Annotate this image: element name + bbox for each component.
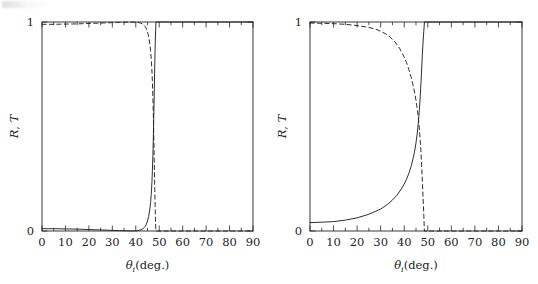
x-tick-label: 30: [373, 235, 388, 249]
x-tick-label: 70: [199, 235, 214, 249]
x-tick-label: 50: [152, 235, 167, 249]
y-axis-title-comma: ,: [275, 122, 289, 129]
axis-ticks-right: [310, 22, 522, 231]
y-tick-label: 0: [295, 224, 302, 238]
x-axis-title-unit: (deg.): [135, 258, 169, 272]
plot-left: 010102030405060708090R, Tθi(deg.): [0, 0, 269, 284]
x-tick-label: 50: [420, 235, 435, 249]
y-axis-title-comma: ,: [7, 122, 21, 129]
y-axis-title-r: R: [7, 129, 21, 139]
curve-t-dashed: [310, 23, 522, 231]
axis-labels-left: 010102030405060708090R, Tθi(deg.): [7, 15, 260, 274]
x-tick-label: 20: [82, 235, 97, 249]
plot-box: [42, 22, 253, 231]
axis-ticks-left: [42, 22, 253, 231]
y-axis-title-r: R: [275, 129, 289, 139]
x-axis-title-unit: (deg.): [404, 258, 438, 272]
x-tick-label: 60: [175, 235, 190, 249]
plot-box: [310, 22, 522, 231]
plot-frame-right: [310, 22, 522, 231]
x-tick-label: 80: [222, 235, 237, 249]
x-tick-label: 40: [397, 235, 412, 249]
curves-right: [310, 22, 522, 231]
y-tick-label: 1: [295, 15, 302, 29]
figure-canvas: 010102030405060708090R, Tθi(deg.) 010102…: [0, 0, 538, 284]
x-axis-title: θi(deg.): [126, 258, 170, 274]
x-tick-label: 30: [105, 235, 120, 249]
y-axis-title-t: T: [7, 113, 21, 122]
x-tick-label: 10: [326, 235, 341, 249]
x-tick-label: 0: [306, 235, 313, 249]
x-tick-label: 90: [246, 235, 261, 249]
plot-right: 010102030405060708090R, Tθi(deg.): [269, 0, 538, 284]
panel-left: 010102030405060708090R, Tθi(deg.): [0, 0, 269, 284]
x-tick-label: 90: [515, 235, 530, 249]
x-tick-label: 80: [491, 235, 506, 249]
y-axis-title: R, T: [7, 113, 21, 139]
x-tick-label: 10: [58, 235, 73, 249]
x-tick-label: 60: [444, 235, 459, 249]
x-tick-label: 0: [38, 235, 45, 249]
y-tick-label: 0: [27, 224, 34, 238]
x-tick-label: 70: [468, 235, 483, 249]
y-axis-title: R, T: [275, 113, 289, 139]
x-tick-label: 40: [128, 235, 143, 249]
curve-r-solid: [310, 22, 522, 223]
y-tick-label: 1: [27, 15, 34, 29]
x-axis-title: θi(deg.): [394, 258, 438, 274]
plot-frame-left: [42, 22, 253, 231]
curves-left: [42, 22, 253, 231]
y-axis-title-t: T: [275, 113, 289, 122]
curve-r-solid: [42, 22, 253, 231]
panel-right: 010102030405060708090R, Tθi(deg.): [269, 0, 538, 284]
x-tick-label: 20: [350, 235, 365, 249]
curve-t-dashed: [42, 22, 253, 231]
